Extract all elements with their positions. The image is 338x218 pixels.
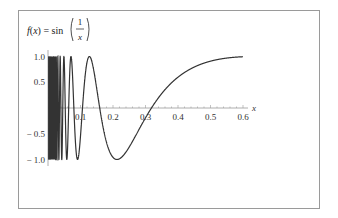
y-tick-label: − 0.5 <box>26 129 45 139</box>
x-tick-label: 0.4 <box>172 112 184 122</box>
x-tick-label: 0.5 <box>205 112 217 122</box>
x-tick-label: 0.1 <box>75 112 86 122</box>
title-lhs: f(x) = sin <box>27 25 63 37</box>
title-denominator: x <box>77 32 82 42</box>
x-tick-label: 0.2 <box>107 112 118 122</box>
y-tick-label: 1.0 <box>34 52 46 62</box>
x-axis-label: x <box>251 103 256 113</box>
title-right-paren <box>87 18 89 41</box>
y-tick-label: 0.5 <box>34 77 46 87</box>
x-tick-label: 0.6 <box>237 112 249 122</box>
y-tick-label: − 1.0 <box>26 155 45 165</box>
title-left-paren <box>71 18 73 41</box>
chart-canvas: f(x) = sin 1 x 0.10.20.30.40.50.61.00.5−… <box>0 0 338 218</box>
title-numerator: 1 <box>78 17 83 27</box>
chart-title: f(x) = sin 1 x <box>27 17 89 42</box>
